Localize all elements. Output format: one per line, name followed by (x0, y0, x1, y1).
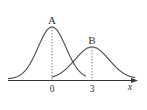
normal-curves-diagram: A B 0 3 x (0, 0, 147, 110)
curve-a-label: A (48, 14, 56, 26)
tick-label-3: 3 (90, 84, 95, 94)
curve-b (52, 47, 135, 78)
tick-label-0: 0 (50, 84, 55, 94)
x-axis-label: x (127, 81, 133, 92)
curve-a (8, 27, 86, 79)
curve-b-label: B (88, 34, 95, 46)
